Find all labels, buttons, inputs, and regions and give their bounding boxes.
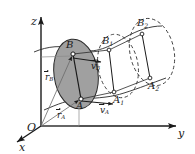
point-label-A1: A1	[113, 95, 124, 106]
axis-label-z: z	[31, 16, 37, 27]
point-marker-B	[71, 52, 75, 56]
point-label-B: B	[66, 40, 73, 50]
chord-AB-position-3	[142, 34, 150, 78]
point-label-B2: B2	[137, 18, 148, 29]
point-marker-B1	[107, 48, 111, 52]
vector-label-vA: vA	[100, 106, 109, 116]
chord-AB-position-2	[109, 50, 114, 92]
vector-label-rB: rB	[45, 73, 53, 83]
axis-label-x: x	[19, 142, 25, 153]
vector-label-vB: vB	[91, 62, 100, 72]
figure-3d-rigid-body-diagram: z y x O B A B1 A1 B2 A2 rB rA vB vA	[0, 0, 195, 154]
point-label-B1: B1	[102, 36, 113, 47]
axis-label-y: y	[178, 128, 184, 139]
point-label-A2: A2	[148, 81, 159, 92]
axis-label-origin: O	[27, 122, 36, 133]
point-label-A: A	[76, 101, 83, 111]
vector-label-rA: rA	[57, 111, 65, 121]
point-marker-B2	[140, 32, 144, 36]
